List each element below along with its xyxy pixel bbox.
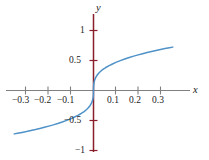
- x-axis-label: x: [193, 85, 198, 96]
- x-tick-label-neg-0-3: −0.3: [12, 96, 29, 106]
- y-tick-label-1: 1: [80, 26, 85, 36]
- y-axis-label: y: [96, 3, 101, 14]
- y-tick-label-neg-1: −1: [75, 146, 85, 156]
- x-tick-label-0-1: 0.1: [107, 96, 119, 106]
- y-tick-label-0-5: 0.5: [69, 56, 81, 66]
- x-tick-label-0-2: 0.2: [129, 96, 141, 106]
- graph-figure: −0.3 −0.2 −0.1 0.1 0.2 0.3 1 0.5 −0.5 −1…: [0, 0, 209, 160]
- x-tick-label-0-3: 0.3: [152, 96, 164, 106]
- y-tick-label-neg-0-5: −0.5: [64, 116, 81, 126]
- x-tick-label-neg-0-2: −0.2: [34, 96, 51, 106]
- plot-canvas: [0, 0, 209, 160]
- x-tick-label-neg-0-1: −0.1: [57, 96, 74, 106]
